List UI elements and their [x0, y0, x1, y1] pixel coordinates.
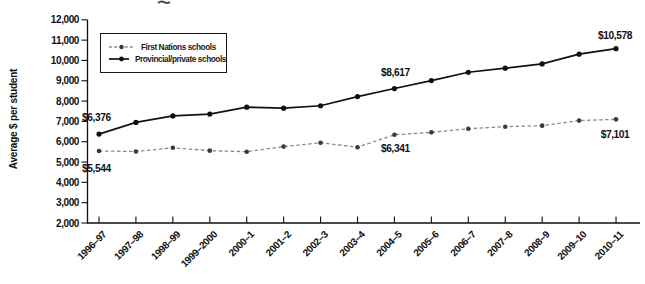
y-tick-label: 11,000 [51, 35, 79, 46]
first-nations-schools-point [466, 126, 471, 131]
x-tick-label: 2000–1 [226, 228, 256, 258]
provincial-private-schools-point [576, 52, 581, 57]
first-nations-schools-series [97, 117, 619, 154]
first-nations-schools-point [134, 149, 139, 154]
provincial-private-schools-point [96, 131, 101, 136]
x-tick-label: 2007–8 [485, 228, 515, 258]
provincial-private-schools-point [540, 61, 545, 66]
x-tick-label: 2004–5 [374, 228, 404, 258]
data-label: $8,617 [381, 67, 410, 78]
x-tick-label: 1997–98 [112, 228, 146, 262]
provincial-private-schools-point [613, 46, 618, 51]
data-label: $7,101 [601, 129, 630, 140]
legend-item-first-nations: First Nations schools [108, 43, 226, 52]
first-nations-schools-point [503, 124, 508, 129]
x-tick-label: 2008–9 [522, 228, 552, 258]
provincial-private-schools-point [466, 70, 471, 75]
legend-label-provincial: Provincial/private schools [135, 55, 226, 64]
first-nations-schools-point [171, 146, 176, 151]
provincial-private-schools-point [170, 113, 175, 118]
first-nations-schools-point [97, 149, 102, 154]
solid-line-swatch [108, 55, 129, 63]
provincial-private-schools-point [429, 78, 434, 83]
data-label: $6,341 [381, 143, 410, 154]
provincial-private-schools-point [355, 94, 360, 99]
first-nations-schools-point [614, 117, 619, 122]
line-chart: 2,0003,0004,0005,0006,0007,0008,0009,000… [0, 0, 645, 284]
data-label: $6,376 [82, 112, 111, 123]
provincial-private-schools-point [207, 111, 212, 116]
y-tick-label: 7,000 [56, 116, 80, 127]
first-nations-schools-point [244, 149, 249, 154]
cropped-title-fragment [157, 0, 171, 6]
data-label: $5,544 [82, 163, 111, 174]
y-tick-label: 8,000 [56, 96, 80, 107]
x-tick-label: 2001–2 [263, 228, 293, 258]
y-tick-label: 12,000 [51, 14, 80, 25]
first-nations-schools-point [355, 145, 360, 150]
first-nations-schools-point [392, 132, 397, 137]
y-axis-title: Average $ per student [8, 69, 19, 169]
y-tick-label: 3,000 [56, 197, 80, 208]
x-tick-label: 2006–7 [448, 228, 478, 258]
first-nations-schools-point [577, 118, 582, 123]
x-axis: 1996–971997–981998–991999–20002000–12001… [75, 217, 626, 270]
provincial-private-schools-point [392, 86, 397, 91]
y-tick-label: 6,000 [56, 136, 80, 147]
provincial-private-schools-point [133, 120, 138, 125]
y-tick-label: 2,000 [56, 218, 80, 229]
first-nations-schools-point [318, 140, 323, 145]
x-tick-label: 2002–3 [300, 228, 330, 258]
y-tick-label: 10,000 [51, 55, 80, 66]
x-tick-label: 1999–2000 [179, 228, 220, 269]
data-label: $10,578 [598, 30, 633, 41]
x-tick-label: 2005–6 [411, 228, 441, 258]
first-nations-schools-point [429, 130, 434, 135]
y-tick-label: 4,000 [56, 177, 80, 188]
chart-figure: 2,0003,0004,0005,0006,0007,0008,0009,000… [0, 0, 645, 284]
legend: First Nations schools Provincial/private… [100, 33, 227, 73]
y-tick-label: 5,000 [56, 157, 80, 168]
provincial-private-schools-point [244, 105, 249, 110]
x-tick-label: 2003–4 [337, 228, 367, 258]
legend-label-first-nations: First Nations schools [141, 43, 216, 52]
y-tick-label: 9,000 [56, 75, 80, 86]
first-nations-schools-point [207, 148, 212, 153]
provincial-private-schools-point [318, 103, 323, 108]
legend-item-provincial: Provincial/private schools [108, 55, 226, 64]
provincial-private-schools-point [503, 66, 508, 71]
x-tick-label: 2010–11 [592, 228, 626, 262]
dashed-line-swatch [108, 43, 135, 51]
first-nations-schools-point [540, 123, 545, 128]
provincial-private-schools-point [281, 106, 286, 111]
x-tick-label: 1998–99 [149, 228, 183, 262]
x-tick-label: 1996–97 [75, 228, 109, 262]
x-tick-label: 2009–10 [555, 228, 589, 262]
first-nations-schools-point [281, 144, 286, 149]
